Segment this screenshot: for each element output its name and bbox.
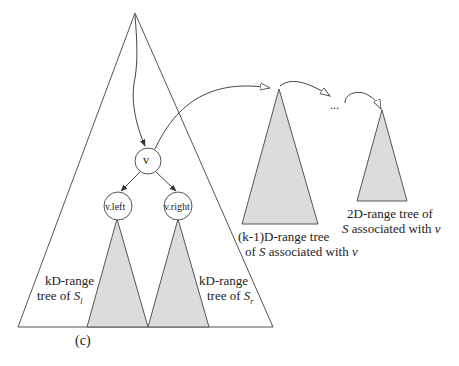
assoc-k1-label-line2: of S associated with v xyxy=(245,244,358,259)
left-subtree-label: kD-range xyxy=(44,273,94,288)
edge-v-right xyxy=(156,172,176,191)
range-tree-diagram xyxy=(0,0,459,366)
left-subtree-sub: l xyxy=(80,297,82,306)
assoc-2d-var: v xyxy=(435,221,441,236)
node-v-right-label: v.right xyxy=(164,199,190,214)
assoc-k1-prefix: of xyxy=(245,244,259,259)
left-subtree-label-line1: kD-range xyxy=(44,273,94,288)
node-v-left-label: v.left xyxy=(105,199,125,214)
assoc-2d-label-line1: 2D-range tree of xyxy=(347,206,433,221)
right-subtree-sub: r xyxy=(250,297,253,306)
assoc-2d-label-line2: S associated with v xyxy=(342,221,441,236)
assoc-arrow-k1 xyxy=(155,86,270,149)
assoc-k1-tree-triangle xyxy=(242,89,318,224)
figure-caption: (c) xyxy=(75,333,91,348)
edge-v-left xyxy=(121,172,140,191)
assoc-arrow-2d xyxy=(345,92,381,109)
left-subtree-prefix: tree of xyxy=(37,288,74,303)
assoc-arrow-next xyxy=(280,81,330,96)
left-subtree-triangle xyxy=(87,219,148,327)
assoc-2d-mid: associated with xyxy=(349,221,435,236)
assoc-k1-mid: associated with xyxy=(266,244,352,259)
assoc-k1-var: v xyxy=(352,244,358,259)
node-v-label: v xyxy=(143,153,149,168)
right-subtree-label-line1: kD-range xyxy=(199,273,248,288)
assoc-k1-label-line1: (k-1)D-range tree xyxy=(238,229,329,244)
ellipsis: ... xyxy=(330,98,339,113)
left-subtree-label-line2: tree of Sl xyxy=(37,288,83,309)
search-path-arrow xyxy=(133,15,145,146)
assoc-2d-tree-triangle xyxy=(357,110,407,201)
right-subtree-label-line2: tree of Sr xyxy=(207,288,253,309)
right-subtree-prefix: tree of xyxy=(207,288,244,303)
